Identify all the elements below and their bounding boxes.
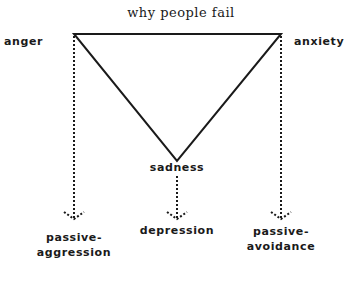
outcome-line: avoidance [231,239,331,254]
outcome-passive-avoidance: passive- avoidance [231,224,331,254]
outcome-line: aggression [24,245,124,260]
node-sadness: sadness [137,160,217,175]
outcome-passive-aggression: passive- aggression [24,230,124,260]
node-anxiety: anxiety [294,34,360,49]
emotion-triangle [74,34,281,161]
outcome-depression: depression [127,223,227,238]
node-anger: anger [2,34,64,49]
outcome-line: passive- [231,224,331,239]
outcome-line: passive- [24,230,124,245]
